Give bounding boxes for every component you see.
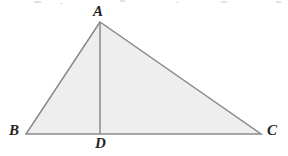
- scan-speck: [176, 2, 179, 3]
- vertex-label-d: D: [95, 136, 106, 151]
- scan-speck: [276, 1, 281, 3]
- scan-speck: [120, 0, 125, 2]
- vertex-label-b: B: [9, 123, 19, 138]
- geometry-figure: A B C D: [0, 0, 288, 156]
- scan-speck: [60, 3, 63, 4]
- vertex-label-a: A: [93, 4, 103, 19]
- scan-speck: [34, 1, 41, 3]
- triangle-abc-shape: [26, 22, 261, 134]
- triangle-diagram-svg: [0, 0, 288, 156]
- scan-speck: [221, 1, 227, 3]
- vertex-label-c: C: [267, 123, 277, 138]
